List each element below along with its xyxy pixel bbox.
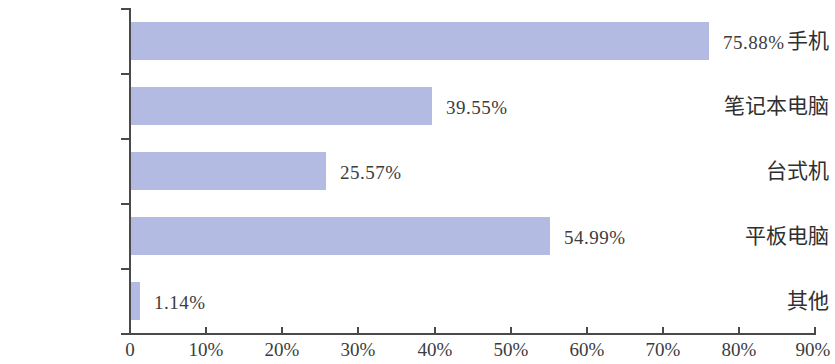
x-axis-tick	[814, 327, 816, 334]
x-axis-line	[129, 333, 816, 335]
bar-value-3: 54.99%	[564, 228, 626, 247]
x-axis-tick	[434, 327, 436, 334]
category-label-4: 其他	[713, 291, 835, 312]
y-axis-tick	[121, 203, 130, 205]
bar-2	[131, 152, 326, 190]
y-axis-tick	[121, 73, 130, 75]
x-tick-label-9: 90%	[796, 340, 831, 359]
x-tick-label-5: 50%	[494, 340, 529, 359]
bar-4	[131, 282, 140, 320]
x-axis-tick	[357, 327, 359, 334]
x-tick-label-2: 20%	[265, 340, 300, 359]
x-axis-tick	[205, 327, 207, 334]
x-axis-tick	[586, 327, 588, 334]
bar-value-4: 1.14%	[154, 293, 206, 312]
y-axis-tick	[121, 138, 130, 140]
category-label-1: 笔记本电脑	[713, 96, 835, 117]
category-label-2: 台式机	[713, 161, 835, 182]
bar-3	[131, 217, 550, 255]
x-axis-tick	[738, 327, 740, 334]
x-tick-label-1: 10%	[189, 340, 224, 359]
x-tick-label-6: 60%	[570, 340, 605, 359]
bar-chart: 手机 笔记本电脑 台式机 平板电脑 其他 75.88% 39.55% 25.57…	[0, 0, 835, 364]
bar-value-1: 39.55%	[446, 98, 508, 117]
bar-value-0: 75.88%	[723, 33, 785, 52]
x-axis-tick	[510, 327, 512, 334]
x-axis-tick	[129, 327, 131, 334]
y-axis-tick	[121, 268, 130, 270]
bar-1	[131, 87, 432, 125]
x-tick-label-4: 40%	[418, 340, 453, 359]
y-axis-tick	[121, 8, 130, 10]
x-tick-label-8: 80%	[722, 340, 757, 359]
bar-0	[131, 22, 709, 60]
x-tick-label-3: 30%	[341, 340, 376, 359]
x-axis-tick	[662, 327, 664, 334]
x-tick-label-7: 70%	[646, 340, 681, 359]
x-tick-label-0: 0	[125, 340, 135, 359]
x-axis-tick	[281, 327, 283, 334]
category-label-3: 平板电脑	[713, 226, 835, 247]
bar-value-2: 25.57%	[340, 163, 402, 182]
